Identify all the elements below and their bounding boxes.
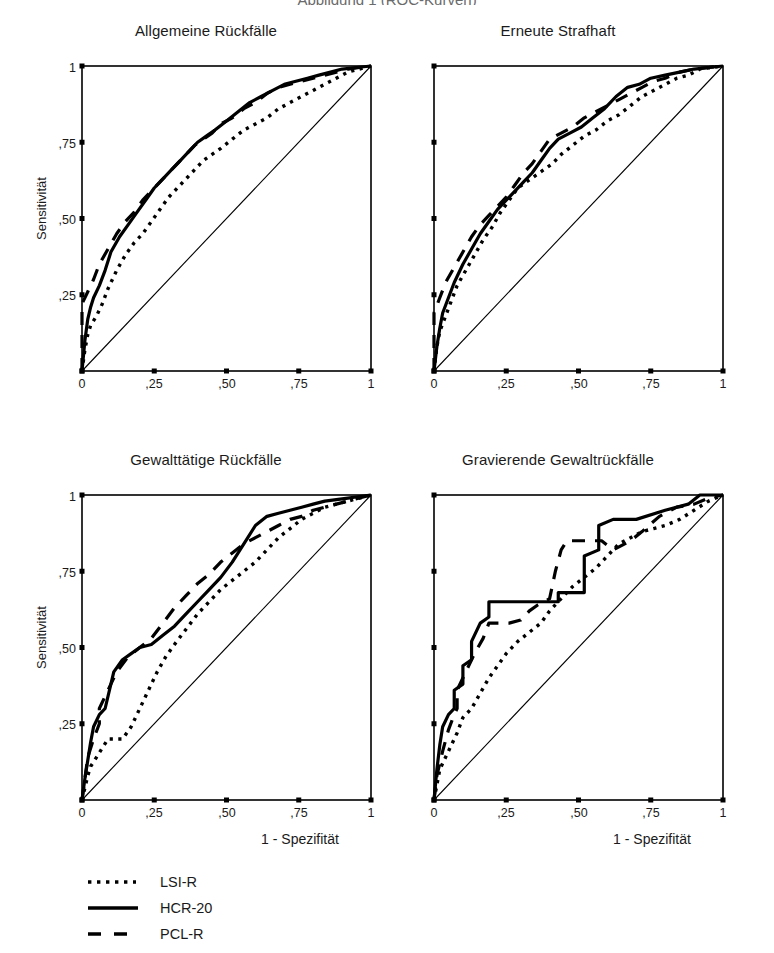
legend: LSI-R HCR-20 PCL-R xyxy=(86,869,346,953)
roc-curves xyxy=(82,495,371,800)
roc-curves xyxy=(82,66,371,371)
y-tick: 1 xyxy=(69,61,76,75)
roc-figure: Abbildung 1 (ROC-Kurven) Allgemeine Rück… xyxy=(0,0,774,953)
roc-curves xyxy=(434,66,723,371)
y-tick: ,50 xyxy=(59,213,76,227)
x-tick-labels: 0 ,25 ,50 ,75 1 xyxy=(434,806,723,824)
legend-label: PCL-R xyxy=(160,926,204,942)
x-tick-labels: 0 ,25 ,50 ,75 1 xyxy=(434,377,723,395)
x-axis-label: 1 - Spezifität xyxy=(613,831,691,847)
x-tick: ,50 xyxy=(570,377,587,391)
legend-item-hcr-20[interactable]: HCR-20 xyxy=(86,895,346,921)
legend-label: HCR-20 xyxy=(160,900,212,916)
legend-item-lsi-r[interactable]: LSI-R xyxy=(86,869,346,895)
plot-area xyxy=(82,495,371,800)
y-tick: ,25 xyxy=(59,718,76,732)
panel-title: Gravierende Gewaltrückfälle xyxy=(378,451,738,468)
x-tick: ,25 xyxy=(145,377,162,391)
x-tick: ,75 xyxy=(642,377,659,391)
panel-title: Gewalttätige Rückfälle xyxy=(26,451,386,468)
legend-key-solid xyxy=(86,895,144,921)
x-tick: ,25 xyxy=(145,806,162,820)
y-tick-labels: 1 ,75 ,50 ,25 xyxy=(48,495,76,800)
x-axis-label: 1 - Spezifität xyxy=(261,831,339,847)
x-tick: ,50 xyxy=(218,806,235,820)
y-axis-label: Sensitivität xyxy=(34,177,49,240)
x-tick: ,50 xyxy=(218,377,235,391)
x-tick: ,75 xyxy=(642,806,659,820)
panel-title: Erneute Strafhaft xyxy=(378,22,738,39)
roc-curves xyxy=(434,495,723,800)
panel-allgemeine-rueckfaelle: Allgemeine Rückfälle Sensitivität 1 ,75 … xyxy=(0,22,400,422)
x-tick: ,50 xyxy=(570,806,587,820)
plot-area xyxy=(434,66,723,371)
x-tick: ,25 xyxy=(497,377,514,391)
panel-title: Allgemeine Rückfälle xyxy=(26,22,386,39)
panel-gewalttaetige-rueckfaelle: Gewalttätige Rückfälle Sensitivität 1 ,7… xyxy=(0,451,400,881)
y-tick: ,75 xyxy=(59,137,76,151)
y-tick: ,25 xyxy=(59,289,76,303)
legend-key-dashed xyxy=(86,921,144,947)
x-tick: ,75 xyxy=(290,806,307,820)
x-tick-labels: 0 ,25 ,50 ,75 1 xyxy=(82,377,371,395)
plot-area xyxy=(82,66,371,371)
y-axis-label: Sensitivität xyxy=(34,606,49,669)
y-tick: ,75 xyxy=(59,566,76,580)
x-tick: 0 xyxy=(79,377,86,391)
legend-label: LSI-R xyxy=(160,874,197,890)
x-tick-labels: 0 ,25 ,50 ,75 1 xyxy=(82,806,371,824)
panel-erneute-strafhaft: Erneute Strafhaft 0 ,25 ,50 ,75 1 xyxy=(352,22,752,422)
x-tick: 0 xyxy=(431,377,438,391)
plot-area xyxy=(434,495,723,800)
x-tick: 0 xyxy=(431,806,438,820)
figure-top-title: Abbildung 1 (ROC-Kurven) xyxy=(0,0,774,5)
legend-item-pcl-r[interactable]: PCL-R xyxy=(86,921,346,947)
x-tick: ,25 xyxy=(497,806,514,820)
x-tick: 1 xyxy=(720,377,727,391)
y-tick: 1 xyxy=(69,490,76,504)
x-tick: ,75 xyxy=(290,377,307,391)
x-tick: 1 xyxy=(720,806,727,820)
y-tick-labels: 1 ,75 ,50 ,25 xyxy=(48,66,76,371)
x-tick: 0 xyxy=(79,806,86,820)
y-tick: ,50 xyxy=(59,642,76,656)
panel-gravierende-gewaltrueckfaelle: Gravierende Gewaltrückfälle 0 ,25 ,50 ,7… xyxy=(352,451,752,881)
legend-key-dotted xyxy=(86,869,144,895)
